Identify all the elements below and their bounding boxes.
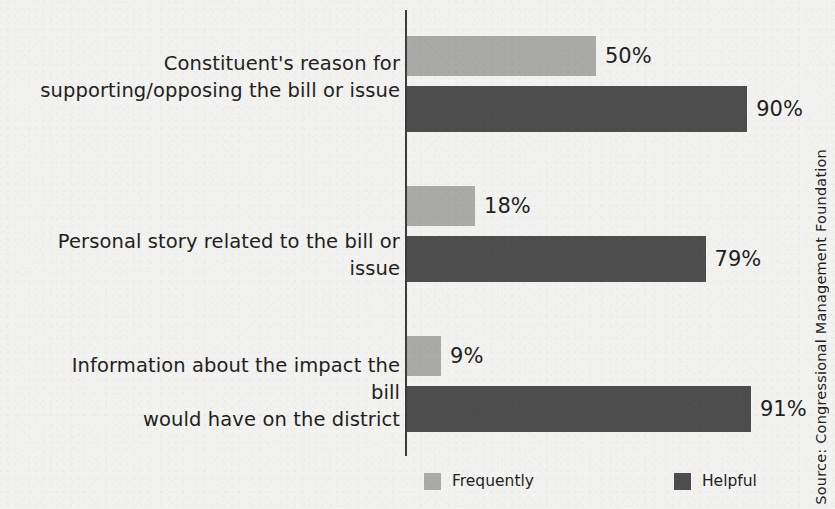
bar-chart: Constituent's reason for supporting/oppo… (0, 0, 835, 509)
bar-helpful[interactable] (407, 386, 751, 432)
bar-frequently[interactable] (407, 186, 475, 226)
chart-legend: Frequently Helpful (424, 470, 757, 492)
legend-swatch-icon (424, 473, 441, 490)
bar-group: Information about the impact the bill wo… (0, 336, 795, 452)
category-label: Constituent's reason for supporting/oppo… (40, 50, 400, 104)
bar-frequently[interactable] (407, 336, 441, 376)
bar-group: Constituent's reason for supporting/oppo… (0, 36, 795, 152)
bar-helpful[interactable] (407, 86, 747, 132)
plot-area: Constituent's reason for supporting/oppo… (0, 0, 795, 509)
bar-value-frequently: 50% (596, 46, 652, 67)
bar-value-frequently: 18% (475, 196, 531, 217)
bar-value-helpful: 90% (747, 99, 803, 120)
legend-swatch-icon (674, 473, 691, 490)
bar-group: Personal story related to the bill or is… (0, 186, 795, 302)
source-credit: Source: Congressional Management Foundat… (811, 149, 831, 505)
legend-item-helpful[interactable]: Helpful (674, 473, 757, 490)
category-label: Personal story related to the bill or is… (40, 228, 400, 282)
source-credit-text: Source: Congressional Management Foundat… (811, 149, 831, 505)
bar-helpful[interactable] (407, 236, 706, 282)
bar-value-helpful: 79% (706, 249, 762, 270)
legend-label: Frequently (452, 473, 534, 489)
legend-item-frequently[interactable]: Frequently (424, 473, 534, 490)
category-label: Information about the impact the bill wo… (40, 352, 400, 433)
bar-frequently[interactable] (407, 36, 596, 76)
bar-value-helpful: 91% (751, 399, 807, 420)
bar-value-frequently: 9% (441, 346, 483, 367)
legend-label: Helpful (702, 473, 757, 489)
